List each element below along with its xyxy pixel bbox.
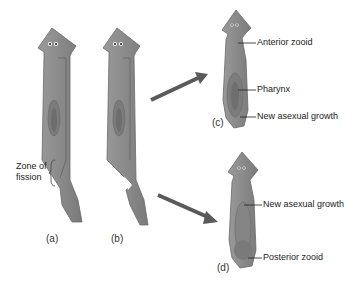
planarian-b [103,28,148,225]
planarian-d [228,152,258,268]
planarian-a [38,28,82,222]
new-asexual-growth-label-c: New asexual growth [257,111,338,122]
pharynx-label: Pharynx [257,84,290,95]
new-asexual-growth-label-d: New asexual growth [263,199,344,210]
arrow-down-right-icon [158,195,218,224]
zone-of-fission-label-2: fission [16,172,42,183]
posterior-zooid-label: Posterior zooid [263,252,323,263]
zone-of-fission-label: Zone of [16,161,47,172]
planarian-c [222,10,251,128]
panel-label-b: (b) [111,233,123,244]
panel-label-d: (d) [217,262,229,273]
panel-label-a: (a) [46,233,58,244]
arrow-up-right-icon [151,72,208,100]
anterior-zooid-label: Anterior zooid [257,37,313,48]
panel-label-c: (c) [212,117,224,128]
